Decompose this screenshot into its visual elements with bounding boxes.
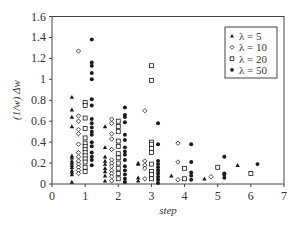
y-tick-label: 0.8: [31, 93, 46, 107]
data-point: [123, 138, 127, 142]
data-point: [90, 133, 94, 137]
data-point: [123, 180, 127, 184]
data-point: [83, 165, 87, 169]
data-point: [123, 106, 127, 110]
data-point: [123, 168, 127, 172]
x-tick-label: 0: [49, 189, 55, 203]
data-point: [90, 151, 94, 155]
series-triangle: [70, 95, 240, 184]
data-point: [123, 133, 127, 137]
data-point: [70, 180, 74, 184]
data-point: [143, 109, 147, 113]
data-point: [83, 160, 87, 164]
legend-marker-square-open-icon: [230, 57, 234, 61]
x-tick-label: 4: [182, 189, 188, 203]
y-tick-label: 1.6: [31, 10, 46, 24]
data-point: [76, 114, 80, 118]
y-tick-label: 0.6: [31, 114, 46, 128]
data-point: [189, 142, 193, 146]
data-point: [176, 141, 180, 145]
data-point: [149, 78, 153, 82]
data-point: [90, 125, 94, 129]
data-point: [202, 177, 206, 181]
y-tick-label: 0.4: [31, 135, 46, 149]
data-point: [149, 173, 153, 177]
data-point: [76, 119, 80, 123]
x-tick-label: 1: [82, 189, 88, 203]
y-axis-label: (1/w) Δw: [10, 79, 23, 119]
data-point: [149, 162, 153, 166]
data-point: [189, 160, 193, 164]
data-point: [222, 155, 226, 159]
data-point: [90, 140, 94, 144]
data-point: [103, 145, 107, 149]
scatter-chart: 01234567 00.20.40.60.811.21.41.6 step (1…: [0, 0, 304, 225]
data-point: [83, 169, 87, 173]
data-point: [116, 161, 120, 165]
data-point: [116, 124, 120, 128]
data-point: [176, 160, 180, 164]
series-square-open: [83, 64, 253, 181]
data-point: [209, 174, 213, 178]
data-point: [70, 124, 74, 128]
x-tick-label: 3: [148, 189, 154, 203]
data-point: [83, 104, 87, 108]
data-point: [249, 172, 253, 176]
data-point: [90, 104, 94, 108]
data-point: [83, 127, 87, 131]
data-point: [90, 97, 94, 101]
data-point: [109, 121, 113, 125]
data-point: [116, 130, 120, 134]
data-point: [70, 95, 74, 99]
data-point: [149, 142, 153, 146]
legend: λ = 5λ = 10λ = 20λ = 50: [225, 27, 277, 78]
data-point: [143, 166, 147, 170]
y-tick-label: 0.2: [31, 156, 46, 170]
data-point: [70, 115, 74, 119]
legend-label: λ = 5: [239, 30, 262, 42]
data-point: [83, 116, 87, 120]
data-point: [76, 132, 80, 136]
data-point: [90, 117, 94, 121]
y-axis: 00.20.40.60.811.21.41.6: [31, 10, 52, 192]
data-point: [90, 144, 94, 148]
data-point: [103, 173, 107, 177]
data-point: [189, 174, 193, 178]
data-point: [256, 162, 260, 166]
x-tick-label: 7: [281, 189, 287, 203]
legend-label: λ = 20: [239, 53, 268, 65]
data-point: [156, 121, 160, 125]
legend-marker-circle-filled-icon: [230, 68, 234, 72]
x-tick-label: 5: [215, 189, 221, 203]
data-point: [123, 115, 127, 119]
data-point: [183, 177, 187, 181]
data-point: [222, 176, 226, 180]
data-point: [123, 120, 127, 124]
data-point: [216, 165, 220, 169]
data-point: [109, 179, 113, 183]
y-tick-label: 1.2: [31, 51, 46, 65]
data-point: [116, 119, 120, 123]
data-point: [90, 77, 94, 81]
data-point: [123, 158, 127, 162]
data-point: [76, 171, 80, 175]
data-point: [76, 49, 80, 53]
data-point: [90, 158, 94, 162]
y-tick-label: 0: [40, 177, 46, 191]
data-point: [123, 164, 127, 168]
data-point: [123, 173, 127, 177]
data-point: [83, 136, 87, 140]
data-point: [76, 142, 80, 146]
data-point: [70, 107, 74, 111]
legend-label: λ = 50: [239, 64, 268, 76]
data-point: [149, 64, 153, 68]
data-point: [143, 177, 147, 181]
legend-label: λ = 10: [239, 41, 268, 53]
data-point: [123, 153, 127, 157]
data-point: [103, 124, 107, 128]
data-point: [149, 151, 153, 155]
data-point: [103, 179, 107, 183]
data-point: [189, 178, 193, 182]
data-point: [149, 146, 153, 150]
data-point: [90, 64, 94, 68]
